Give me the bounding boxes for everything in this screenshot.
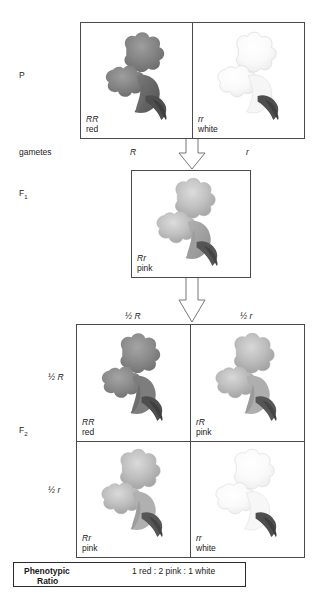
phenotype-label: pink — [82, 543, 98, 553]
parental-left-labels: RR red — [86, 114, 98, 134]
phenotype-label: red — [82, 427, 94, 437]
f2-cell-rr-pink-bottom: Rr pink — [77, 442, 190, 557]
phenotype-label: pink — [196, 427, 212, 437]
iris-flower-icon — [205, 329, 297, 421]
phenotypic-ratio-label-line1: Phenotypic — [24, 566, 70, 577]
f2-row-header-0: ½ R — [48, 373, 64, 382]
phenotype-label: white — [196, 543, 216, 553]
row-label-f1: F1 — [19, 189, 28, 200]
genotype-label: RR — [86, 114, 98, 124]
genotype-label: rR — [196, 417, 212, 427]
f2-row-header-1: ½ r — [48, 486, 60, 495]
genetics-diagram: P gametes F1 F2 — [0, 0, 325, 602]
phenotype-label: red — [86, 124, 98, 134]
parental-right-labels: rr white — [198, 114, 218, 134]
row-label-gametes: gametes — [19, 148, 52, 157]
iris-flower-icon — [91, 329, 183, 421]
gamete-label-right: r — [246, 148, 249, 157]
f2-cell-rr-white: rr white — [191, 442, 304, 557]
genotype-label: rr — [198, 114, 218, 124]
iris-flower-icon — [95, 28, 187, 120]
f2-cell-rr-red: RR red — [77, 325, 190, 441]
f2-cell-1-labels: rR pink — [196, 417, 212, 437]
phenotypic-ratio-label-line2: Ratio — [37, 576, 58, 587]
genotype-label: Rr — [82, 533, 98, 543]
iris-flower-icon — [205, 445, 297, 537]
parental-cell-rr-white: rr white — [193, 23, 304, 138]
phenotype-label: pink — [137, 263, 153, 273]
iris-flower-icon — [91, 445, 183, 537]
arrow-f1-to-f2 — [172, 278, 212, 324]
row-label-f2: F2 — [19, 426, 28, 437]
phenotypic-ratio-box: Phenotypic Ratio 1 red : 2 pink : 1 whit… — [13, 562, 246, 587]
f1-labels: Rr pink — [137, 253, 153, 273]
arrow-p-to-f1 — [172, 139, 212, 171]
genotype-label: rr — [196, 533, 216, 543]
f2-cell-2-labels: Rr pink — [82, 533, 98, 553]
iris-flower-icon — [146, 174, 238, 266]
f2-col-header-0: ½ R — [125, 312, 141, 321]
f1-cell-rr-pink: Rr pink — [132, 171, 250, 277]
genotype-label: RR — [82, 417, 94, 427]
f2-cell-rr-pink-top: rR pink — [191, 325, 304, 441]
genotype-label: Rr — [137, 253, 153, 263]
f2-cell-0-labels: RR red — [82, 417, 94, 437]
f2-cell-3-labels: rr white — [196, 533, 216, 553]
gamete-label-left: R — [130, 148, 136, 157]
parental-cell-rr-red: RR red — [81, 23, 192, 138]
phenotype-label: white — [198, 124, 218, 134]
phenotypic-ratio-value: 1 red : 2 pink : 1 white — [132, 566, 215, 577]
row-label-parental: P — [19, 71, 25, 80]
f2-col-header-1: ½ r — [240, 312, 252, 321]
iris-flower-icon — [207, 28, 299, 120]
